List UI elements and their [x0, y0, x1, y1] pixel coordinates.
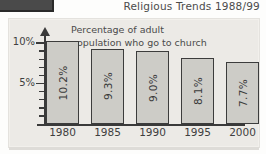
bar-value-label: 9.0% — [147, 74, 159, 102]
bar: 10.2% — [46, 41, 79, 124]
x-axis-tick-label: 1985 — [86, 126, 130, 138]
bar: 9.3% — [91, 49, 124, 124]
chart-screenshot: Religious Trends 1988/99 Percentage of a… — [0, 0, 266, 154]
x-axis-tick-label: 1990 — [131, 126, 175, 138]
x-axis-tick-label: 2000 — [221, 126, 265, 138]
bar: 9.0% — [136, 51, 169, 124]
bar: 8.1% — [181, 58, 214, 124]
cut-off-graphic-icon — [0, 0, 54, 12]
bar-value-label: 9.3% — [102, 72, 114, 100]
x-axis-tick-labels: 19801985199019952000 — [9, 126, 259, 146]
bar-value-label: 10.2% — [57, 65, 69, 100]
bar-value-label: 7.7% — [237, 79, 249, 107]
bar: 7.7% — [226, 62, 259, 124]
bar-value-label: 8.1% — [192, 77, 204, 105]
chart-title: Religious Trends 1988/99 — [123, 0, 260, 12]
x-axis-tick-label: 1995 — [176, 126, 220, 138]
x-axis-tick-label: 1980 — [41, 126, 85, 138]
plot-area: Percentage of adult population who go to… — [8, 18, 260, 148]
